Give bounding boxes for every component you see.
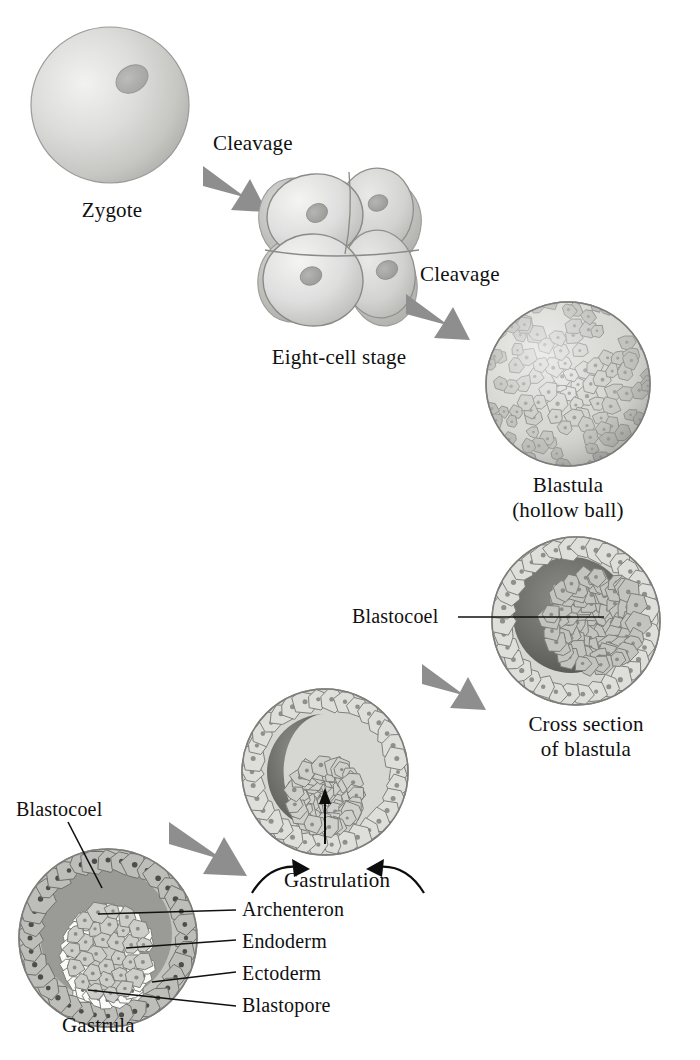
block-arrow-shape xyxy=(406,294,470,340)
blastopore-leader xyxy=(88,988,240,1022)
to-gastrulation-arrow xyxy=(418,660,504,724)
cleavage-2-arrow xyxy=(406,288,490,350)
zygote-label: Zygote xyxy=(28,198,196,223)
leader-line xyxy=(68,822,102,888)
leader-line xyxy=(98,910,236,914)
blastocoel-blastula-label: Blastocoel xyxy=(352,605,438,628)
blastula-shading xyxy=(486,302,650,466)
leader-line xyxy=(88,990,236,1006)
blastula-illustration xyxy=(482,300,654,470)
blastula-sublabel: (hollow ball) xyxy=(468,498,668,523)
archenteron-leader xyxy=(98,900,240,922)
leader-line xyxy=(126,940,236,948)
ectoderm-label: Ectoderm xyxy=(242,962,321,985)
zygote-illustration xyxy=(28,24,198,192)
blastopore-label: Blastopore xyxy=(242,994,331,1017)
blastocoel-blastula-leader xyxy=(458,605,608,627)
embryonic-development-figure: Zygote Cleavage xyxy=(0,0,700,1060)
archenteron-label: Archenteron xyxy=(242,898,344,921)
cross-section-sublabel: of blastula xyxy=(486,737,686,762)
endoderm-leader xyxy=(126,930,240,954)
blastula-label: Blastula xyxy=(468,473,668,498)
cross-section-label: Cross section xyxy=(486,712,686,737)
cleavage-1-label: Cleavage xyxy=(213,131,293,156)
leader-line xyxy=(152,972,236,982)
blastocoel-gastrula-label: Blastocoel xyxy=(16,798,102,821)
blastocoel-gastrula-leader xyxy=(66,820,126,892)
zygote-cell xyxy=(31,27,189,183)
block-arrow-shape xyxy=(422,664,486,710)
cleavage-2-label: Cleavage xyxy=(420,262,500,287)
eight-cell-stage-illustration xyxy=(253,158,425,334)
endoderm-label: Endoderm xyxy=(242,930,327,953)
ectoderm-leader xyxy=(152,962,240,988)
